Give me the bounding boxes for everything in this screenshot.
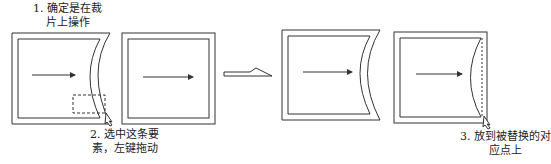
step-3-label: 3. 放到被替换的对 应点上	[460, 130, 551, 158]
panel-1-curved-frame	[12, 33, 112, 126]
step-3-line-2: 应点上	[460, 144, 551, 158]
step-2-line-2: 素，左键拖动	[90, 142, 159, 156]
panel-2-rect-frame	[122, 33, 215, 124]
panel-3-curved-frame	[282, 30, 380, 120]
step-2-line-1: 2. 选中这条要	[90, 128, 159, 142]
step-2-label: 2. 选中这条要 素，左键拖动	[90, 128, 159, 156]
transition-arrow-icon	[224, 68, 272, 76]
panel-4-target-frame	[394, 32, 490, 129]
step-3-line-1: 3. 放到被替换的对	[460, 130, 551, 144]
step-1-line-2: 片上操作	[33, 16, 102, 30]
step-1-line-1: 1. 确定是在裁	[33, 2, 102, 16]
step-1-label: 1. 确定是在裁 片上操作	[33, 2, 102, 30]
selection-box	[73, 95, 105, 113]
